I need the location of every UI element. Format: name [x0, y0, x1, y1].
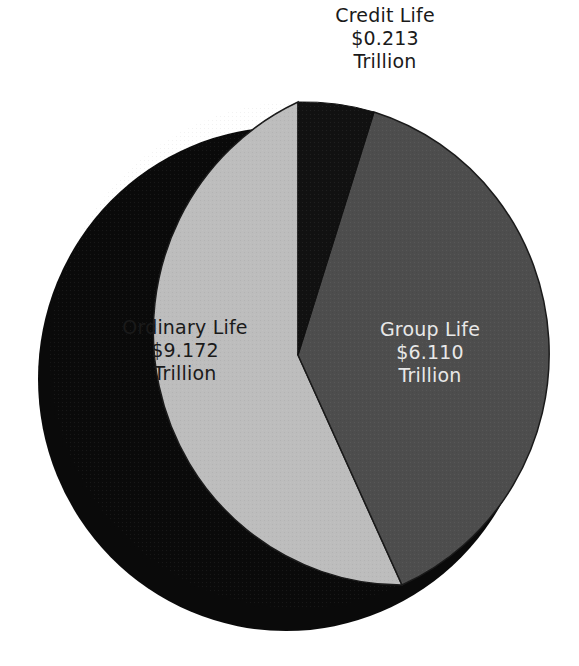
label-group-value: $6.110	[355, 341, 505, 364]
label-ordinary-value: $9.172	[100, 339, 270, 362]
label-group-name: Group Life	[355, 318, 505, 341]
label-credit-life: Credit Life $0.213 Trillion	[315, 4, 455, 73]
label-credit-value: $0.213	[315, 27, 455, 50]
label-group-life: Group Life $6.110 Trillion	[355, 318, 505, 387]
label-ordinary-life: Ordinary Life $9.172 Trillion	[100, 316, 270, 385]
label-ordinary-unit: Trillion	[100, 362, 270, 385]
label-credit-unit: Trillion	[315, 50, 455, 73]
label-group-unit: Trillion	[355, 364, 505, 387]
label-credit-name: Credit Life	[315, 4, 455, 27]
label-ordinary-name: Ordinary Life	[100, 316, 270, 339]
